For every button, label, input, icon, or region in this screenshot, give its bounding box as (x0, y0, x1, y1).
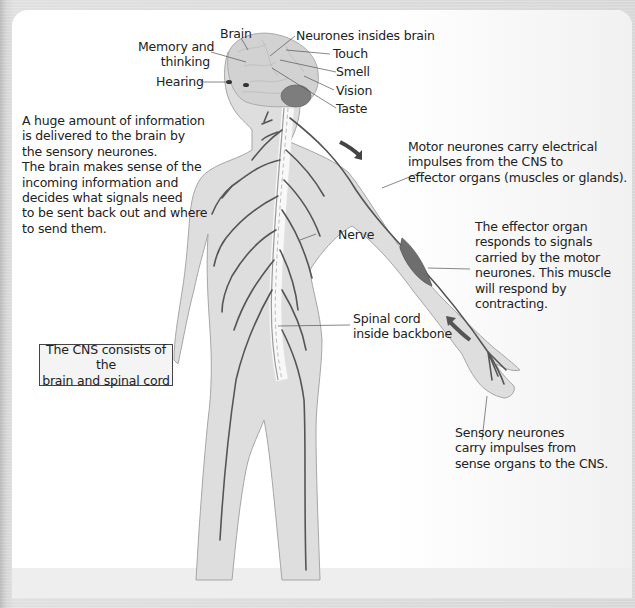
label-memory-line2: thinking (138, 54, 210, 69)
body-silhouette (174, 47, 520, 580)
brain-illustration (226, 33, 318, 107)
label-nerve: Nerve (338, 227, 374, 242)
cerebellum (281, 85, 311, 107)
label-hearing: Hearing (156, 74, 204, 89)
label-taste: Taste (336, 101, 367, 116)
label-smell: Smell (336, 64, 370, 79)
cns-box-line2: brain and spinal cord (40, 373, 172, 388)
text-information-processing: A huge amount of information is delivere… (22, 113, 207, 236)
text-sensory-neurones: Sensory neurones carry impulses from sen… (455, 425, 608, 471)
label-touch: Touch (333, 46, 368, 61)
text-effector-organ: The effector organ responds to signals c… (475, 219, 611, 311)
label-memory-line1: Memory and (138, 39, 210, 54)
label-vision: Vision (336, 83, 372, 98)
cns-definition-box: The CNS consists of the brain and spinal… (39, 344, 173, 386)
label-neurones-inside-brain: Neurones insides brain (296, 28, 435, 43)
label-spinal-cord-line2: inside backbone (353, 326, 452, 341)
text-motor-neurones: Motor neurones carry electrical impulses… (408, 139, 627, 185)
label-spinal-cord-line1: Spinal cord (353, 311, 421, 326)
ear (243, 83, 249, 87)
arrow-motor-direction-icon (340, 142, 362, 160)
cns-box-line1: The CNS consists of the (40, 342, 172, 373)
label-brain: Brain (220, 26, 252, 41)
